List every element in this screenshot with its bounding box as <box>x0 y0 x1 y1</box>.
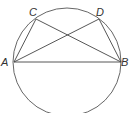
label-b: B <box>121 56 128 68</box>
label-a: A <box>0 56 8 68</box>
segment-bd <box>99 19 121 62</box>
segment-bc <box>36 19 121 62</box>
geometry-diagram: A B C D <box>0 0 130 113</box>
label-c: C <box>29 6 37 18</box>
circle <box>13 8 121 113</box>
label-d: D <box>96 6 104 18</box>
